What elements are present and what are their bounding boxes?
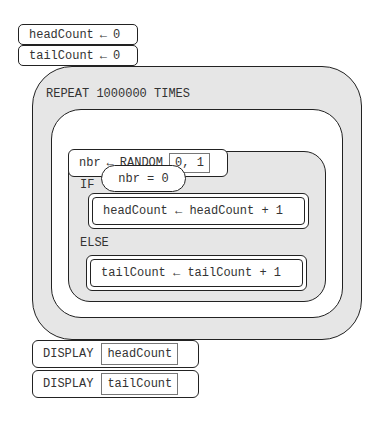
display-tailcount-block: DISPLAY tailCount: [32, 370, 199, 398]
display-arg: headCount: [101, 343, 178, 365]
init-headcount-block: headCount ← 0: [18, 24, 138, 45]
assign-arrow-icon: ←: [100, 28, 107, 42]
else-statement: tailCount ← tailCount + 1: [90, 259, 303, 287]
else-keyword: ELSE: [80, 236, 109, 250]
then-statement: headCount ← headCount + 1: [92, 197, 305, 225]
init-value: 0: [113, 49, 120, 63]
else-statement-block: tailCount ← tailCount + 1: [86, 255, 307, 291]
display-keyword: DISPLAY: [43, 377, 93, 391]
init-variable: headCount: [29, 28, 94, 42]
if-condition: nbr = 0: [101, 165, 186, 192]
init-tailcount-block: tailCount ← 0: [18, 45, 138, 66]
then-statement-block: headCount ← headCount + 1: [88, 193, 309, 229]
repeat-keyword: REPEAT 1000000 TIMES: [46, 87, 190, 101]
assign-arrow-icon: ←: [100, 49, 107, 63]
display-arg: tailCount: [101, 373, 178, 395]
display-headcount-block: DISPLAY headCount: [32, 340, 199, 368]
if-keyword: IF: [80, 178, 94, 192]
init-value: 0: [113, 28, 120, 42]
init-variable: tailCount: [29, 49, 94, 63]
display-keyword: DISPLAY: [43, 347, 93, 361]
random-variable: nbr: [79, 156, 101, 170]
